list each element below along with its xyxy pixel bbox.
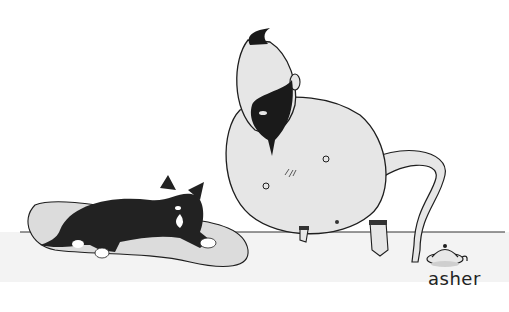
cartoon-illustration	[0, 0, 509, 312]
genie	[226, 28, 388, 256]
artist-signature: asher	[428, 268, 481, 289]
cartoon-canvas: asher	[0, 0, 509, 312]
